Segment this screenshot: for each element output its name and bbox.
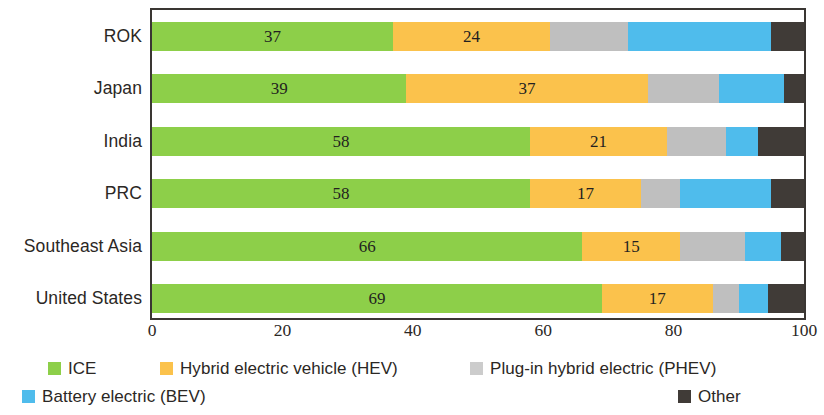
- bar-segment: [530, 179, 641, 208]
- bar-segment: [641, 179, 680, 208]
- category-label: United States: [0, 290, 142, 308]
- bar-row: 3937: [152, 74, 804, 103]
- bar-segment: [152, 74, 406, 103]
- bar-segment: [582, 232, 680, 261]
- bar-segment: [152, 284, 602, 313]
- legend-swatch-icon: [470, 362, 483, 375]
- bar-row: 6917: [152, 284, 804, 313]
- bar-segment: [152, 22, 393, 51]
- legend-item: Other: [678, 388, 741, 405]
- bar-segment: [758, 127, 804, 156]
- bar-segment: [784, 74, 804, 103]
- bar-segment: [726, 127, 759, 156]
- bar-segment: [602, 284, 713, 313]
- category-label: ROK: [0, 28, 142, 46]
- legend-item: Plug-in hybrid electric (PHEV): [470, 360, 716, 377]
- legend-label: Other: [698, 388, 741, 405]
- category-axis-labels: ROKJapanIndiaPRCSoutheast AsiaUnited Sta…: [0, 8, 142, 320]
- bar-segment: [393, 22, 549, 51]
- legend-swatch-icon: [160, 362, 173, 375]
- legend-swatch-icon: [678, 390, 691, 403]
- legend-label: Plug-in hybrid electric (PHEV): [490, 360, 716, 377]
- bar-segment: [768, 284, 804, 313]
- category-label: Southeast Asia: [0, 238, 142, 256]
- bar-segment: [680, 179, 771, 208]
- bar-segment: [152, 232, 582, 261]
- category-label: Japan: [0, 80, 142, 98]
- bar-segment: [745, 232, 781, 261]
- legend-label: Battery electric (BEV): [42, 388, 206, 405]
- bar-segment: [530, 127, 667, 156]
- legend-swatch-icon: [22, 390, 35, 403]
- bar-row: 5817: [152, 179, 804, 208]
- bar-segment: [680, 232, 745, 261]
- bar-segment: [771, 179, 804, 208]
- bar-segment: [739, 284, 768, 313]
- bar-row: 5821: [152, 127, 804, 156]
- category-label: PRC: [0, 185, 142, 203]
- bars-layer: 372439375821581766156917: [152, 10, 804, 318]
- legend-item: Hybrid electric vehicle (HEV): [160, 360, 398, 377]
- x-axis-tick-label: 40: [404, 322, 422, 340]
- bar-segment: [152, 127, 530, 156]
- legend-item: Battery electric (BEV): [22, 388, 206, 405]
- chart-legend: ICEHybrid electric vehicle (HEV)Plug-in …: [0, 358, 824, 415]
- bar-segment: [667, 127, 726, 156]
- bar-row: 3724: [152, 22, 804, 51]
- bar-row: 6615: [152, 232, 804, 261]
- bar-segment: [719, 74, 784, 103]
- bar-segment: [406, 74, 647, 103]
- x-axis-ticks: 020406080100: [152, 322, 804, 350]
- x-axis-tick-label: 60: [534, 322, 552, 340]
- bar-segment: [781, 232, 804, 261]
- stacked-bar-chart: ROKJapanIndiaPRCSoutheast AsiaUnited Sta…: [0, 0, 824, 415]
- bar-segment: [152, 179, 530, 208]
- bar-segment: [628, 22, 771, 51]
- legend-label: Hybrid electric vehicle (HEV): [180, 360, 398, 377]
- legend-swatch-icon: [48, 362, 61, 375]
- bar-segment: [648, 74, 720, 103]
- plot-area: ROKJapanIndiaPRCSoutheast AsiaUnited Sta…: [0, 0, 824, 330]
- bar-segment: [771, 22, 804, 51]
- legend-item: ICE: [48, 360, 97, 377]
- bar-segment: [713, 284, 739, 313]
- x-axis-tick-label: 80: [665, 322, 683, 340]
- bar-segment: [550, 22, 628, 51]
- x-axis-tick-label: 0: [148, 322, 157, 340]
- x-axis-tick-label: 100: [791, 322, 817, 340]
- category-label: India: [0, 133, 142, 151]
- legend-label: ICE: [68, 360, 97, 377]
- x-axis-tick-label: 20: [274, 322, 292, 340]
